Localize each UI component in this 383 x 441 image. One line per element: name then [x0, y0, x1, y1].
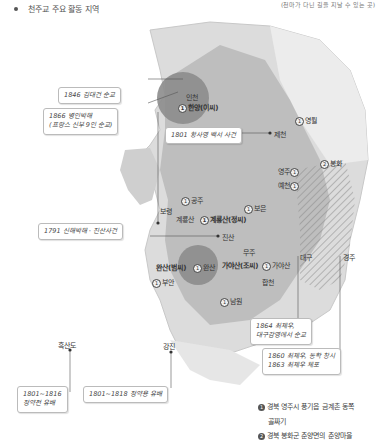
- place-gangjin: 강진: [163, 341, 175, 351]
- event-1860: 1860 최제우, 동학 창시 1863 최제우 체포: [262, 348, 341, 375]
- place-yeongju: 영주1: [278, 166, 300, 177]
- footnote-number-icon: 1: [258, 404, 265, 411]
- place-bonghwa: 2봉화: [320, 158, 342, 169]
- footnote-number-icon: 2: [258, 433, 265, 440]
- marker-icon: 1: [295, 117, 304, 126]
- place-daegu: 대구: [300, 252, 312, 262]
- place-buan: 1부안: [152, 277, 174, 288]
- place-wansan: 1완산: [193, 262, 215, 273]
- place-gyeryongsan-jeong: 1계룡산(정씨): [200, 214, 246, 225]
- event-1846: 1846 김대건 순교: [58, 87, 121, 104]
- place-hapcheon: 합천: [262, 277, 274, 287]
- event-1801-hwang: 1801 황사영 백서 사건: [165, 127, 242, 144]
- marker-icon: 1: [181, 197, 190, 206]
- marker-icon: 1: [152, 279, 161, 288]
- place-yeongwol: 1영월: [295, 115, 317, 126]
- footnote-2: 2경북 봉화군 춘양면의 춘양마을: [258, 430, 352, 440]
- event-1864: 1864 최제우, 대구감영에서 순교: [250, 318, 312, 345]
- marker-icon: 1: [290, 182, 299, 191]
- marker-icon: 1: [178, 104, 187, 113]
- place-incheon: 인천: [186, 92, 198, 102]
- marker-icon: 1: [220, 298, 229, 307]
- place-hanyang: 1한양(이씨): [178, 102, 218, 113]
- event-1866: 1866 병인박해 (프랑스 신부 9인 순교): [43, 108, 118, 135]
- event-1801-1816: 1801~1816 정약전 유배: [17, 386, 68, 413]
- place-gayasan: 1가야산: [262, 260, 290, 271]
- marker-icon: 1: [290, 168, 299, 177]
- event-1791: 1791 신해박해 · 진산사건: [38, 223, 123, 240]
- marker-icon: 1: [244, 205, 253, 214]
- place-heuksando: 흑산도: [58, 340, 76, 350]
- place-wansan-beom: 완산(범씨): [156, 262, 186, 272]
- marker-icon: 2: [320, 160, 329, 169]
- place-gyeryongsan: 계룡산: [176, 214, 194, 224]
- place-boryeong: 보령: [160, 206, 172, 216]
- footnote-1: 1경북 영주시 풍기읍 금계촌 동쪽: [258, 401, 354, 411]
- place-yecheon: 예천1: [278, 180, 300, 191]
- place-jecheon: 제천: [274, 129, 286, 139]
- place-jinsan: 진산: [222, 232, 234, 242]
- place-muju: 무주: [243, 247, 255, 257]
- event-1801-1818: 1801~1818 정약용 유배: [83, 386, 168, 403]
- marker-icon: 1: [200, 216, 209, 225]
- place-boeun: 1보은: [244, 203, 266, 214]
- marker-icon: 1: [262, 262, 271, 271]
- footnote-1-cont: 골짜기: [268, 416, 286, 426]
- place-gyeongju: 경주: [343, 252, 355, 262]
- marker-icon: 1: [193, 264, 202, 273]
- place-namwon: 1남원: [220, 296, 242, 307]
- place-gongju: 1공주: [181, 195, 203, 206]
- place-gayasan-jo: 가야산(조씨): [222, 260, 258, 270]
